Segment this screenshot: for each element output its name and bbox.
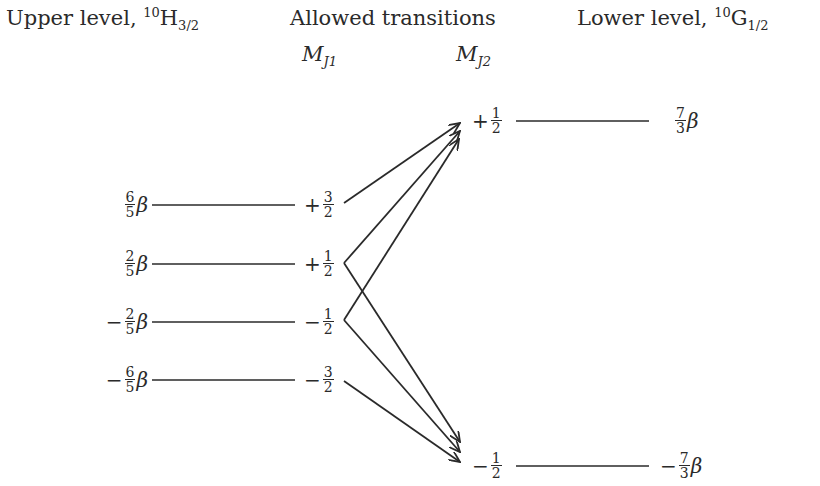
upper-energy-label-3: − 25 β <box>106 307 148 336</box>
transition-arrow-plus3-plus1 <box>344 123 460 203</box>
mj-fraction: 32 <box>323 190 334 219</box>
beta-symbol: β <box>687 109 699 133</box>
lower-energy-label-2: − 73 β <box>660 451 702 480</box>
mj1-label-plus-3-2: + 32 <box>304 190 335 219</box>
mj-fraction: 12 <box>491 451 502 480</box>
denominator: 2 <box>492 121 501 135</box>
numerator: 7 <box>675 106 686 121</box>
mj2-label-minus-1-2: − 12 <box>472 451 503 480</box>
numerator: 6 <box>125 365 136 380</box>
energy-fraction: 73 <box>679 451 690 480</box>
numerator: 1 <box>323 249 334 264</box>
denominator: 3 <box>676 121 685 135</box>
mj-sign: − <box>304 310 321 334</box>
energy-fraction: 73 <box>675 106 686 135</box>
mj1-label-minus-3-2: − 32 <box>304 365 335 394</box>
mj1-label-minus-1-2: − 12 <box>304 307 335 336</box>
energy-fraction: 25 <box>125 249 136 278</box>
beta-symbol: β <box>136 252 148 276</box>
numerator: 1 <box>491 451 502 466</box>
mj-fraction: 12 <box>491 106 502 135</box>
upper-energy-label-1: 65 β <box>123 190 148 219</box>
energy-sign: − <box>660 454 677 478</box>
denominator: 5 <box>126 322 135 336</box>
mj-sign: + <box>304 252 321 276</box>
transition-arrow-plus1-plus1 <box>344 131 460 263</box>
mj2-label-plus-1-2: + 12 <box>472 106 503 135</box>
mj-sign: + <box>304 193 321 217</box>
energy-sign: − <box>106 368 123 392</box>
lower-energy-label-1: 73 β <box>673 106 698 135</box>
beta-symbol: β <box>136 310 148 334</box>
denominator: 2 <box>492 466 501 480</box>
numerator: 3 <box>323 365 334 380</box>
mj-sign: + <box>472 109 489 133</box>
transition-arrow-minus1-plus1 <box>344 139 459 320</box>
denominator: 2 <box>324 322 333 336</box>
denominator: 5 <box>126 205 135 219</box>
numerator: 1 <box>491 106 502 121</box>
transition-arrow-plus1-minus1 <box>344 263 460 442</box>
mj1-label-plus-1-2: + 12 <box>304 249 335 278</box>
denominator: 2 <box>324 264 333 278</box>
beta-symbol: β <box>691 454 703 478</box>
energy-sign: − <box>106 310 123 334</box>
energy-fraction: 65 <box>125 190 136 219</box>
numerator: 7 <box>679 451 690 466</box>
numerator: 3 <box>323 190 334 205</box>
numerator: 2 <box>125 249 136 264</box>
energy-level-diagram <box>0 0 820 486</box>
mj-sign: − <box>304 368 321 392</box>
numerator: 2 <box>125 307 136 322</box>
mj-sign: − <box>472 454 489 478</box>
mj-fraction: 32 <box>323 365 334 394</box>
denominator: 5 <box>126 264 135 278</box>
transition-arrow-minus1-minus1 <box>344 320 460 452</box>
numerator: 1 <box>323 307 334 322</box>
beta-symbol: β <box>136 368 148 392</box>
upper-energy-label-2: 25 β <box>123 249 148 278</box>
mj-fraction: 12 <box>323 307 334 336</box>
mj-fraction: 12 <box>323 249 334 278</box>
energy-fraction: 65 <box>125 365 136 394</box>
upper-energy-label-4: − 65 β <box>106 365 148 394</box>
denominator: 3 <box>680 466 689 480</box>
transition-arrow-minus3-minus1 <box>344 381 460 462</box>
denominator: 5 <box>126 380 135 394</box>
denominator: 2 <box>324 380 333 394</box>
energy-fraction: 25 <box>125 307 136 336</box>
numerator: 6 <box>125 190 136 205</box>
beta-symbol: β <box>136 193 148 217</box>
denominator: 2 <box>324 205 333 219</box>
